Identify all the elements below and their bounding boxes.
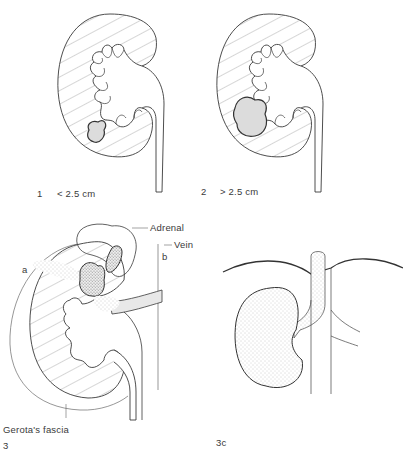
panel-3-number: 3 [3,440,8,450]
panel-1-kidney [58,14,164,192]
panel-2-kidney [217,14,323,192]
label-vein: Vein [174,239,193,250]
kidney-stippled [235,287,302,387]
label-gerotas-fascia: Gerota's fascia [3,424,69,435]
tumor-mass [80,263,105,297]
panel-1-caption: < 2.5 cm [57,188,95,199]
panel-2-caption: > 2.5 cm [220,186,258,197]
panel-2-number: 2 [201,186,206,197]
panel-3-kidney [10,224,172,420]
diagram-canvas [0,0,403,450]
panel-3c-kidney [223,252,403,395]
panel-1-number: 1 [37,188,42,199]
vena-cava [294,252,325,339]
label-b: b [162,251,167,262]
tumor-large [234,97,267,136]
panel-3c-number: 3c [216,437,226,448]
label-adrenal: Adrenal [150,222,184,233]
label-a: a [22,264,27,275]
